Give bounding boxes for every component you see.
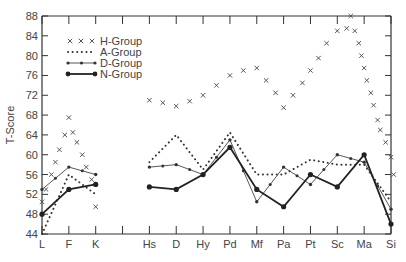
h-group-marker: [324, 41, 328, 45]
y-tick-label: 80: [26, 50, 38, 62]
x-tick-label: Hs: [143, 238, 157, 250]
h-group-marker: [214, 83, 218, 87]
h-group-marker: [147, 98, 151, 102]
d-group-marker: [362, 160, 365, 163]
d-group-midpoint: [349, 157, 352, 160]
series-layer: [39, 14, 395, 234]
d-group-midpoint: [215, 156, 218, 159]
h-group-marker: [291, 93, 295, 97]
series-d-group: [40, 138, 392, 211]
n-group-marker: [227, 145, 232, 150]
h-group-marker: [93, 205, 97, 209]
x-tick-label: Ma: [357, 238, 373, 250]
h-group-marker: [67, 115, 71, 119]
x-tick-label: Sc: [331, 238, 344, 250]
d-group-marker: [94, 173, 97, 176]
d-group-midpoint: [161, 164, 164, 167]
n-group-marker: [93, 182, 98, 187]
h-group-marker: [241, 68, 245, 72]
legend-d-group-marker: [80, 61, 83, 64]
h-group-marker: [369, 91, 373, 95]
n-group-marker: [335, 184, 340, 189]
legend-h-group-marker: [90, 39, 94, 43]
h-group-marker: [89, 177, 93, 181]
y-tick-label: 68: [26, 109, 38, 121]
h-group-marker: [357, 41, 361, 45]
x-tick-label: Si: [386, 238, 396, 250]
x-tick-label: Mf: [251, 238, 264, 250]
a-group-line: [42, 175, 96, 234]
d-group-midpoint: [188, 168, 191, 171]
y-axis-title: T-Score: [4, 106, 16, 145]
h-group-marker: [187, 99, 191, 103]
y-tick-label: 52: [26, 188, 38, 200]
d-group-midpoint: [54, 177, 57, 180]
d-group-marker: [255, 200, 258, 203]
h-group-marker: [264, 78, 268, 82]
n-group-marker: [147, 184, 152, 189]
legend-h-group-marker: [79, 39, 83, 43]
h-group-marker: [345, 26, 349, 30]
h-group-marker: [255, 66, 259, 70]
h-group-marker: [71, 130, 75, 134]
n-group-marker: [174, 187, 179, 192]
d-group-marker: [282, 165, 285, 168]
n-group-marker: [281, 204, 286, 209]
legend-n-group-marker: [66, 72, 71, 77]
legend-h-group-marker: [68, 39, 72, 43]
d-group-marker: [40, 188, 43, 191]
x-tick-label: Pt: [305, 238, 315, 250]
h-group-marker: [378, 128, 382, 132]
d-group-marker: [148, 165, 151, 168]
d-group-marker: [228, 138, 231, 141]
y-tick-label: 60: [26, 149, 38, 161]
y-tick-label: 84: [26, 30, 38, 42]
h-group-marker: [375, 118, 379, 122]
h-group-marker: [57, 148, 61, 152]
x-tick-label: D: [172, 238, 180, 250]
h-group-marker: [174, 104, 178, 108]
h-group-marker: [308, 68, 312, 72]
n-group-marker: [308, 172, 313, 177]
x-tick-label: Pd: [223, 238, 236, 250]
h-group-marker: [228, 73, 232, 77]
d-group-midpoint: [322, 168, 325, 171]
n-group-marker: [200, 172, 205, 177]
y-tick-label: 48: [26, 208, 38, 220]
h-group-marker: [75, 140, 79, 144]
legend-d-group-marker: [66, 61, 69, 64]
h-group-marker: [391, 172, 395, 176]
x-tick-label: F: [65, 238, 72, 250]
n-group-marker: [254, 187, 259, 192]
y-tick-label: 44: [26, 228, 38, 240]
h-group-marker: [335, 29, 339, 33]
legend-n-group-marker: [93, 72, 98, 77]
h-group-marker: [201, 93, 205, 97]
h-group-marker: [300, 81, 304, 85]
legend: H-GroupA-GroupD-GroupN-Group: [66, 35, 143, 80]
d-group-marker: [67, 165, 70, 168]
h-group-marker: [365, 78, 369, 82]
d-group-midpoint: [269, 183, 272, 186]
h-group-marker: [273, 91, 277, 95]
y-axis-ticks: 444852566064687276808488: [26, 10, 391, 240]
t-score-profile-chart: 444852566064687276808488 LFKHsDHyPdMfPaP…: [0, 0, 406, 262]
h-group-marker: [80, 153, 84, 157]
n-group-marker: [388, 221, 393, 226]
d-group-marker: [389, 208, 392, 211]
h-group-marker: [316, 56, 320, 60]
x-tick-label: K: [92, 238, 100, 250]
legend-d-group-marker: [93, 61, 96, 64]
n-group-marker: [39, 212, 44, 217]
h-group-marker: [84, 165, 88, 169]
n-group-marker: [66, 187, 71, 192]
h-group-marker: [161, 101, 165, 105]
d-group-midpoint: [296, 174, 299, 177]
d-group-marker: [309, 183, 312, 186]
h-group-marker: [353, 29, 357, 33]
y-tick-label: 76: [26, 69, 38, 81]
y-tick-label: 88: [26, 10, 38, 22]
h-group-marker: [362, 66, 366, 70]
x-tick-label: Hy: [196, 238, 210, 250]
axes: [42, 16, 391, 234]
